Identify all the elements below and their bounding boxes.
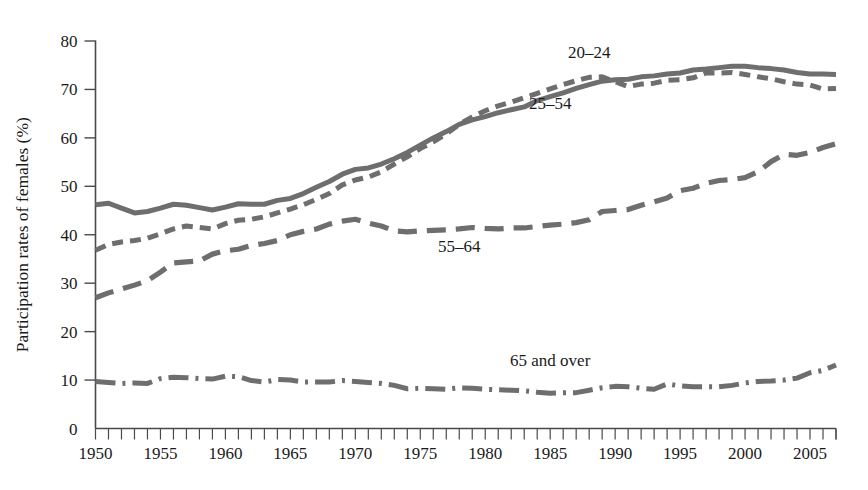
x-tick-label: 2005	[793, 444, 827, 463]
y-axis-title: Participation rates of females (%)	[12, 117, 32, 352]
line-chart: 01020304050607080 1950195519601965197019…	[0, 0, 868, 490]
x-tick-label: 1960	[208, 444, 242, 463]
series-line-65-and-over	[96, 365, 837, 393]
y-tick-label: 0	[69, 420, 78, 439]
y-tick-label: 30	[61, 274, 78, 293]
series-label-25-54: 25–54	[529, 94, 572, 113]
series-labels-group: 20–2425–5455–6465 and over	[438, 43, 611, 370]
y-tick-label: 70	[61, 80, 78, 99]
x-tick-label: 1975	[403, 444, 437, 463]
y-tick-label: 10	[61, 371, 78, 390]
x-tick-label: 1985	[533, 444, 567, 463]
series-line-55-64	[96, 144, 837, 298]
y-axis: 01020304050607080	[61, 32, 96, 439]
series-line-20-24	[96, 72, 837, 250]
chart-container: 01020304050607080 1950195519601965197019…	[0, 0, 868, 490]
y-tick-label: 80	[61, 32, 78, 51]
x-tick-label: 1980	[468, 444, 502, 463]
x-tick-label: 2000	[728, 444, 762, 463]
data-series-group	[96, 66, 837, 393]
x-tick-label: 1995	[663, 444, 697, 463]
x-tick-label: 1965	[273, 444, 307, 463]
x-axis: 1950195519601965197019751980198519901995…	[79, 429, 837, 463]
series-label-20-24: 20–24	[568, 43, 611, 62]
x-tick-label: 1990	[598, 444, 632, 463]
y-tick-label: 20	[61, 323, 78, 342]
series-label-65-and-over: 65 and over	[510, 351, 591, 370]
y-tick-label: 50	[61, 177, 78, 196]
y-tick-label: 40	[61, 226, 78, 245]
x-tick-label: 1950	[79, 444, 113, 463]
y-axis-title-text: Participation rates of females (%)	[12, 117, 32, 352]
series-label-55-64: 55–64	[438, 237, 481, 256]
series-line-25-54	[96, 66, 837, 213]
x-tick-label: 1955	[143, 444, 177, 463]
x-tick-label: 1970	[338, 444, 372, 463]
y-tick-label: 60	[61, 129, 78, 148]
